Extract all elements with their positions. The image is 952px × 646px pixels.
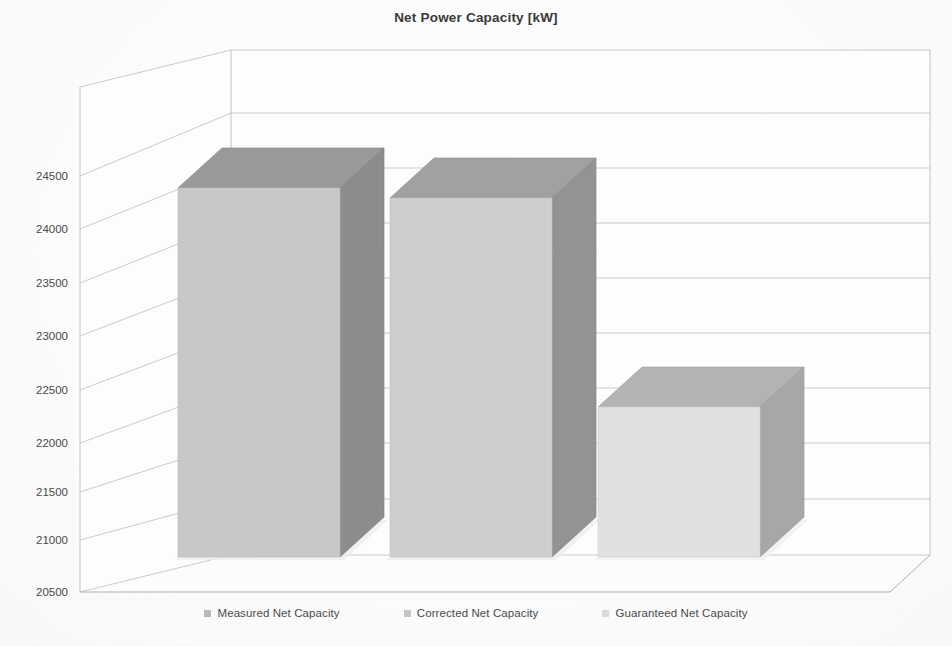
legend-label-corrected-net-capacity: Corrected Net Capacity [417,607,539,619]
ytick-label-21500: 21500 [36,486,68,498]
ytick-label-22000: 22000 [36,437,68,449]
ytick-label-23000: 23000 [36,330,68,342]
legend-swatch-icon [602,610,609,617]
legend-label-measured-net-capacity: Measured Net Capacity [217,607,339,619]
plot-area: 24500 24000 23500 23000 22500 22000 2150… [0,0,952,646]
legend-item-corrected-net-capacity[interactable]: Corrected Net Capacity [404,607,539,619]
bar-2-side-face [552,158,596,557]
ytick-label-22500: 22500 [36,384,68,396]
chart-legend: Measured Net Capacity Corrected Net Capa… [0,607,952,619]
legend-swatch-icon [204,610,211,617]
ytick-label-23500: 23500 [36,277,68,289]
legend-swatch-icon [404,610,411,617]
bar-1-side-face [340,148,384,557]
ytick-label-24500: 24500 [36,170,68,182]
legend-item-measured-net-capacity[interactable]: Measured Net Capacity [204,607,339,619]
bar-measured-net-capacity[interactable] [178,148,384,557]
legend-label-guaranteed-net-capacity: Guaranteed Net Capacity [615,607,747,619]
ytick-label-20500: 20500 [36,586,68,598]
chart-container: Net Power Capacity [kW] [0,0,952,646]
ytick-label-24000: 24000 [36,223,68,235]
legend-item-guaranteed-net-capacity[interactable]: Guaranteed Net Capacity [602,607,747,619]
bar-3-front-face [598,407,760,557]
bar-guaranteed-net-capacity[interactable] [598,367,804,557]
bar-2-front-face [390,198,552,557]
bar-1-front-face [178,188,340,557]
ytick-label-21000: 21000 [36,534,68,546]
bar-corrected-net-capacity[interactable] [390,158,596,557]
